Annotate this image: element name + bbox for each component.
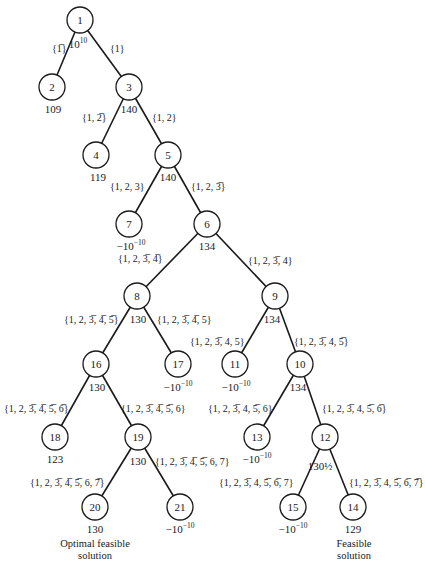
bound-node-4: 119	[90, 171, 107, 183]
node-id: 14	[348, 501, 360, 513]
bound-node-13: −10−10	[243, 451, 272, 465]
bound-node-3: 140	[121, 103, 138, 115]
tree-node: 12	[312, 424, 338, 450]
node-id: 7	[126, 218, 132, 230]
bound-node-19: 130	[130, 455, 147, 467]
tree-node: 10	[287, 351, 313, 377]
tree-node: 16	[83, 351, 109, 377]
bound-node-20: 130	[87, 523, 104, 535]
bound-node-16: 130	[89, 381, 106, 393]
tree-node: 3	[116, 74, 142, 100]
node-id: 12	[320, 431, 331, 443]
tree-node: 5	[155, 142, 181, 168]
node-id: 13	[252, 431, 264, 443]
feasible-solution-caption-line1: Feasible	[337, 538, 372, 549]
tree-node: 8	[124, 283, 150, 309]
bound-node-6: 134	[199, 240, 216, 252]
bound-node-9: 134	[264, 313, 281, 325]
node-id: 4	[93, 149, 99, 161]
tree-node: 21	[167, 494, 193, 520]
bound-node-5: 140	[160, 171, 177, 183]
edge-label-8-17: {1, 2, 3̅, 4̅, 5}	[157, 314, 212, 325]
edge-label-19-21: {1, 2, 3̅, 4̅, 5̅, 6, 7}	[155, 456, 230, 467]
node-id: 15	[288, 501, 300, 513]
bound-node-10: 134	[290, 381, 307, 393]
bound-node-1: 1010	[69, 36, 88, 50]
edges	[52, 20, 353, 507]
edge-label-9-10: {1, 2, 3̅, 4, 5̅}	[294, 336, 349, 347]
node-id: 21	[175, 501, 186, 513]
edge-label-19-20: {1, 2, 3̅, 4̅, 5̅, 6, 7̅}	[30, 477, 105, 488]
bound-node-8: 130	[130, 313, 147, 325]
bound-node-15: −10−10	[279, 521, 308, 535]
edge-label-9-11: {1, 2, 3̅, 4, 5}	[190, 336, 245, 347]
bound-node-21: −10−10	[166, 521, 195, 535]
node-id: 20	[90, 501, 102, 513]
edge-label-12-15: {1, 2, 3̅, 4, 5̅, 6̅, 7}	[219, 477, 294, 488]
node-id: 3	[126, 81, 132, 93]
tree-node: 2	[39, 74, 65, 100]
edge-label-6-9: {1, 2, 3̅, 4}	[248, 255, 293, 266]
tree-node: 1	[67, 7, 93, 33]
bound-node-7: −10−10	[117, 238, 146, 252]
node-id: 11	[230, 358, 241, 370]
node-id: 16	[91, 358, 103, 370]
tree-node: 11	[222, 351, 248, 377]
tree-node: 9	[262, 283, 288, 309]
tree-node: 4	[83, 142, 109, 168]
node-id: 19	[133, 431, 145, 443]
bound-node-14: 129	[345, 523, 362, 535]
edge-label-6-8: {1, 2, 3̅, 4̅}	[118, 253, 163, 264]
edge-label-1-3: {1}	[110, 43, 125, 54]
node-id: 2	[49, 81, 55, 93]
tree-node: 6	[194, 211, 220, 237]
bound-node-11: −10−10	[222, 379, 251, 393]
bound-node-17: −10−10	[164, 379, 193, 393]
edge-label-3-4: {1, 2̅}	[82, 112, 107, 123]
feasible-solution-caption-line2: solution	[337, 550, 372, 561]
node-id: 8	[134, 290, 140, 302]
tree-node: 20	[82, 494, 108, 520]
nodes: 1 2 3 4 5 7 6 8 9 16 17 11 10 18 19 13 1…	[39, 7, 366, 520]
node-id: 6	[204, 218, 210, 230]
bound-node-12: 130½	[308, 460, 333, 472]
node-id: 10	[295, 358, 307, 370]
tree-node: 13	[244, 424, 270, 450]
edge-label-16-19: {1, 2, 3̅, 4̅, 5̅, 6}	[121, 403, 186, 414]
edge-label-1-2: {1̅}	[52, 43, 67, 54]
node-id: 17	[173, 358, 185, 370]
bound-node-18: 123	[47, 453, 64, 465]
tree-node: 15	[280, 494, 306, 520]
edge-label-10-12: {1, 2, 3̅, 4, 5̅, 6̅}	[322, 403, 387, 414]
tree-node: 18	[42, 424, 68, 450]
node-id: 18	[50, 431, 62, 443]
edge-label-12-14: {1, 2, 3̅, 4, 5̅, 6̅, 7̅}	[349, 477, 424, 488]
edge-label-10-13: {1, 2, 3̅, 4, 5̅, 6}	[208, 403, 273, 414]
tree-node: 14	[340, 494, 366, 520]
edge-labels: {1̅} {1} {1, 2̅} {1, 2} {1, 2, 3} {1, 2,…	[4, 43, 424, 488]
node-id: 5	[165, 149, 171, 161]
tree-node: 19	[125, 424, 151, 450]
edge-label-16-18: {1, 2, 3̅, 4̅, 5̅, 6̅}	[4, 403, 69, 414]
captions: Optimal feasible solution Feasible solut…	[60, 538, 372, 561]
node-id: 1	[77, 14, 83, 26]
branch-and-bound-tree: {1̅} {1} {1, 2̅} {1, 2} {1, 2, 3} {1, 2,…	[0, 0, 425, 565]
tree-node: 17	[165, 351, 191, 377]
edge-label-5-7: {1, 2, 3}	[110, 181, 145, 192]
optimal-solution-caption-line1: Optimal feasible	[60, 538, 130, 549]
optimal-solution-caption-line2: solution	[78, 550, 113, 561]
node-id: 9	[272, 290, 278, 302]
edge-label-5-6: {1, 2, 3̅}	[191, 181, 226, 192]
bound-node-2: 109	[45, 103, 62, 115]
edge-label-3-5: {1, 2}	[152, 112, 177, 123]
edge-label-8-16: {1, 2, 3̅, 4̅, 5̅}	[64, 314, 119, 325]
tree-node: 7	[116, 211, 142, 237]
